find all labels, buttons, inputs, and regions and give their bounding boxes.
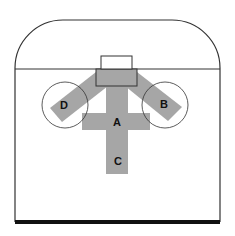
bottom-baseline [15,220,220,224]
small-box [101,56,132,69]
label-b: B [160,98,168,110]
label-a: A [113,116,121,128]
label-d: D [60,99,68,111]
diagram-canvas: D B A C [0,0,235,236]
center-box [96,69,137,86]
label-c: C [114,155,122,167]
